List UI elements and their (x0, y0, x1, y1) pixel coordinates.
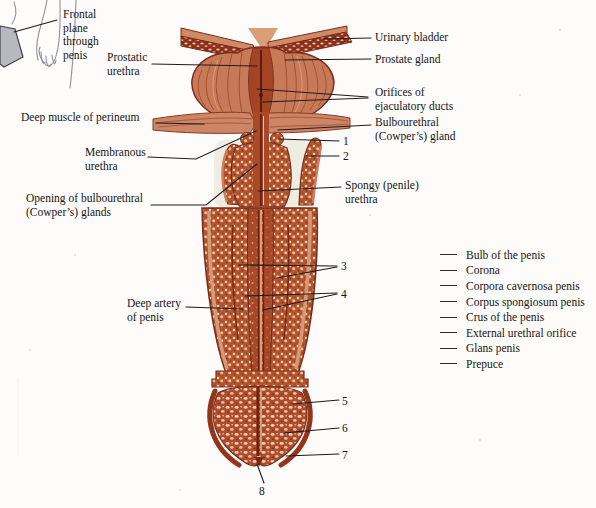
key-item: Corpora cavernosa penis (440, 278, 585, 294)
key-item-label: External urethral orifice (466, 327, 576, 339)
label-membranous-urethra: Membranous urethra (85, 146, 146, 173)
answer-blank-line (440, 363, 457, 364)
label-frontal-plane: Frontal plane through penis (63, 8, 99, 62)
label-prostate-gland: Prostate gland (375, 53, 440, 67)
penis-section-illustration (153, 26, 352, 467)
key-item-label: Bulb of the penis (466, 249, 545, 261)
structure-key: Bulb of the penis Corona Corpora caverno… (440, 247, 585, 372)
key-item-label: Prepuce (466, 358, 503, 370)
ejaculatory-duct-orifice (259, 93, 263, 97)
number-6: 6 (342, 422, 348, 434)
label-orifices-ejaculatory: Orifices of ejaculatory ducts (375, 86, 453, 113)
key-item-label: Corpus spongiosum penis (466, 296, 585, 308)
key-item: Corona (440, 263, 585, 279)
number-2: 2 (343, 150, 349, 162)
label-urinary-bladder: Urinary bladder (375, 31, 448, 45)
number-1: 1 (343, 135, 349, 147)
answer-blank-line (440, 301, 457, 302)
anatomy-figure: Frontal plane through penis Prostatic ur… (0, 0, 596, 508)
frontal-plane-shape (0, 26, 23, 67)
number-4: 4 (341, 288, 347, 300)
key-item-label: Corpora cavernosa penis (466, 280, 580, 292)
answer-blank-line (440, 317, 457, 318)
label-deep-artery: Deep artery of penis (127, 297, 181, 324)
number-8: 8 (259, 485, 265, 497)
number-5: 5 (342, 395, 348, 407)
key-item: Prepuce (440, 356, 585, 372)
key-item-label: Corona (466, 264, 500, 276)
key-item: Crus of the penis (440, 309, 585, 325)
label-deep-muscle-perineum: Deep muscle of perineum (21, 111, 139, 125)
label-bulbourethral-gland: Bulbourethral (Cowper’s) gland (375, 116, 456, 143)
answer-blank-line (440, 332, 457, 333)
penile-shaft (202, 208, 317, 373)
key-item: Bulb of the penis (440, 247, 585, 263)
perineal-muscle (153, 112, 350, 133)
number-3: 3 (341, 260, 347, 272)
answer-blank-line (440, 270, 457, 271)
label-prostatic-urethra: Prostatic urethra (107, 51, 147, 78)
answer-blank-line (440, 348, 457, 349)
key-item-label: Crus of the penis (466, 311, 544, 323)
number-7: 7 (342, 449, 348, 461)
label-spongy-urethra: Spongy (penile) urethra (345, 179, 419, 206)
glans-penis (210, 386, 310, 467)
key-item-label: Glans penis (466, 342, 520, 354)
answer-blank-line (440, 285, 457, 286)
label-opening-bulbourethral: Opening of bulbourethral (Cowper’s) glan… (26, 192, 143, 219)
key-item: Corpus spongiosum penis (440, 294, 585, 310)
key-item: External urethral orifice (440, 325, 585, 341)
corona-step (212, 371, 308, 387)
answer-blank-line (440, 254, 457, 255)
key-item: Glans penis (440, 341, 585, 357)
